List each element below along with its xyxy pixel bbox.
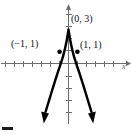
point-label-right: (1, 1) xyxy=(80,39,102,50)
curve-arrow-left xyxy=(41,112,49,124)
x-axis-arrow xyxy=(126,61,131,66)
axes-group xyxy=(1,6,126,124)
y-axis-arrow xyxy=(66,4,71,10)
graph-figure: (0, 3) (−1, 1) (1, 1) x xyxy=(0,0,131,135)
curve-arrow-right xyxy=(88,112,96,124)
coordinate-plane-svg xyxy=(0,0,131,135)
point-label-left: (−1, 1) xyxy=(11,38,38,49)
x-axis-label: x xyxy=(122,62,126,71)
point-label-vertex: (0, 3) xyxy=(71,13,93,24)
point-marker-left xyxy=(57,50,62,55)
point-marker-right xyxy=(75,50,80,55)
page-scan-artifact xyxy=(2,127,13,130)
